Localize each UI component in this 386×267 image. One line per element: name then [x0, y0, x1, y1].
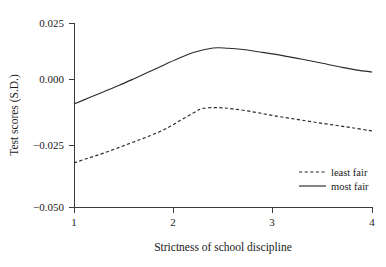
y-tick-label-1: 0.000 — [39, 73, 64, 85]
series-line-least-fair — [74, 108, 372, 163]
legend-label-least-fair: least fair — [331, 167, 368, 178]
legend-label-most-fair: most fair — [331, 181, 369, 192]
x-tick-label-1: 2 — [170, 216, 176, 228]
line-chart: 0.025 0.000 −0.025 −0.050 1 2 3 4 Test s… — [0, 0, 386, 267]
y-tick-label-0: 0.025 — [39, 17, 64, 29]
y-tick-label-3: −0.050 — [33, 201, 64, 213]
y-axis-title: Test scores (S.D.) — [8, 74, 21, 156]
series-line-most-fair — [74, 48, 372, 104]
x-tick-marks — [74, 207, 372, 213]
x-tick-label-3: 4 — [369, 216, 375, 228]
legend: least fair most fair — [299, 167, 369, 192]
y-tick-marks — [69, 23, 74, 207]
x-tick-label-2: 3 — [269, 216, 275, 228]
x-tick-label-0: 1 — [71, 216, 77, 228]
chart-figure: 0.025 0.000 −0.025 −0.050 1 2 3 4 Test s… — [0, 0, 386, 267]
x-axis-title: Strictness of school discipline — [154, 241, 292, 254]
y-tick-label-2: −0.025 — [33, 139, 64, 151]
